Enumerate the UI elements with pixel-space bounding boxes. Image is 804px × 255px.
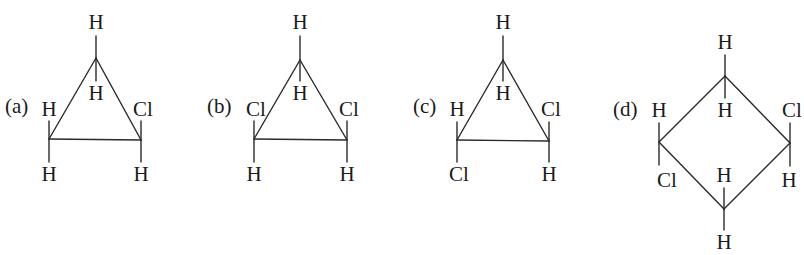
atom-hydrogen: H (717, 30, 732, 54)
atom-hydrogen: H (246, 162, 261, 186)
structure-b: (b)HHClHClH (207, 10, 359, 186)
structures-layer: (a)HHHHClH(b)HHClHClH(c)HHHClClH(d)HHHCl… (5, 10, 802, 254)
ring-bond (659, 76, 725, 142)
ring-bond (457, 140, 549, 141)
atom-hydrogen: H (717, 98, 732, 122)
atom-hydrogen: H (41, 162, 56, 186)
atom-chlorine: Cl (541, 97, 561, 121)
atom-hydrogen: H (495, 10, 510, 34)
structure-label-a: (a) (5, 94, 28, 118)
ring-bond (254, 139, 347, 140)
structure-d: (d)HHHClClHHH (613, 30, 802, 254)
atom-chlorine: Cl (246, 97, 266, 121)
atom-hydrogen: H (133, 162, 148, 186)
atom-hydrogen: H (88, 81, 103, 105)
ring-bond (724, 143, 790, 209)
atom-hydrogen: H (41, 97, 56, 121)
atom-chlorine: Cl (133, 97, 153, 121)
structure-c: (c)HHHClClH (413, 10, 561, 186)
atom-hydrogen: H (781, 168, 796, 192)
atom-hydrogen: H (292, 81, 307, 105)
atom-hydrogen: H (495, 81, 510, 105)
chemical-structures-diagram: (a)HHHHClH(b)HHClHClH(c)HHHClClH(d)HHHCl… (0, 0, 804, 255)
atom-hydrogen: H (716, 230, 731, 254)
atom-hydrogen: H (716, 163, 731, 187)
atom-hydrogen: H (88, 10, 103, 34)
atom-hydrogen: H (292, 10, 307, 34)
atom-chlorine: Cl (339, 97, 359, 121)
ring-bond (725, 76, 790, 143)
atom-hydrogen: H (541, 162, 556, 186)
structure-label-c: (c) (413, 94, 436, 118)
atom-hydrogen: H (339, 162, 354, 186)
atom-hydrogen: H (449, 97, 464, 121)
structure-label-b: (b) (207, 94, 232, 118)
atom-chlorine: Cl (449, 162, 469, 186)
structure-label-d: (d) (613, 97, 638, 121)
atom-chlorine: Cl (782, 98, 802, 122)
atom-hydrogen: H (651, 98, 666, 122)
structure-a: (a)HHHHClH (5, 10, 153, 186)
atom-chlorine: Cl (657, 168, 677, 192)
ring-bond (49, 139, 141, 140)
